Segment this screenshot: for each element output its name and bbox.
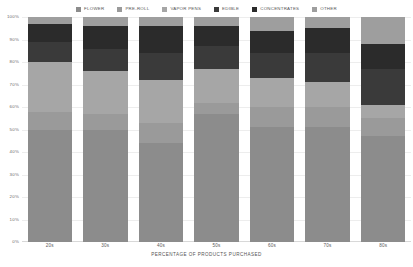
- legend-item[interactable]: FLOWER: [76, 7, 104, 12]
- bar-segment[interactable]: [250, 78, 294, 107]
- y-axis-tick-label: 50%: [10, 127, 19, 131]
- bar-segment[interactable]: [139, 143, 183, 242]
- bar-segment[interactable]: [83, 49, 127, 72]
- y-axis: 100%90%80%70%60%50%40%30%20%10%0%: [0, 17, 22, 242]
- bar-segment[interactable]: [250, 17, 294, 31]
- legend-item[interactable]: PRE-ROLL: [117, 7, 149, 12]
- legend-item-label: EDIBLE: [222, 7, 239, 11]
- y-axis-tick-label: 70%: [10, 82, 19, 86]
- legend-swatch-icon: [76, 7, 81, 12]
- legend-item-label: PRE-ROLL: [125, 7, 149, 11]
- bar-segment[interactable]: [83, 71, 127, 114]
- bar-segment[interactable]: [83, 130, 127, 243]
- y-axis-tick-label: 10%: [10, 217, 19, 221]
- legend-item-label: VAPOR PENS: [170, 7, 201, 11]
- bar-segment[interactable]: [83, 17, 127, 26]
- bar-segment[interactable]: [361, 105, 405, 119]
- chart-legend: FLOWERPRE-ROLLVAPOR PENSEDIBLECONCENTRAT…: [0, 3, 413, 15]
- y-axis-tick-label: 0%: [12, 240, 19, 244]
- bar-segment[interactable]: [194, 69, 238, 103]
- stacked-bar-group: [22, 17, 411, 242]
- bar-segment[interactable]: [361, 136, 405, 242]
- y-axis-tick-label: 20%: [10, 195, 19, 199]
- legend-swatch-icon: [117, 7, 122, 12]
- bar-segment[interactable]: [194, 103, 238, 114]
- legend-swatch-icon: [312, 7, 317, 12]
- bar-column[interactable]: [139, 17, 183, 242]
- bar-segment[interactable]: [250, 53, 294, 78]
- legend-item-label: FLOWER: [84, 7, 104, 11]
- bar-segment[interactable]: [361, 44, 405, 69]
- bar-segment[interactable]: [361, 69, 405, 105]
- bar-column[interactable]: [194, 17, 238, 242]
- legend-item-label: OTHER: [320, 7, 337, 11]
- legend-swatch-icon: [214, 7, 219, 12]
- bar-column[interactable]: [250, 17, 294, 242]
- bar-segment[interactable]: [361, 17, 405, 44]
- y-axis-tick-label: 60%: [10, 105, 19, 109]
- bar-segment[interactable]: [28, 42, 72, 62]
- bar-segment[interactable]: [250, 127, 294, 242]
- bar-segment[interactable]: [305, 127, 349, 242]
- bar-segment[interactable]: [194, 17, 238, 26]
- bar-segment[interactable]: [28, 112, 72, 130]
- bar-segment[interactable]: [305, 17, 349, 28]
- bar-column[interactable]: [305, 17, 349, 242]
- bar-segment[interactable]: [139, 123, 183, 143]
- legend-item[interactable]: VAPOR PENS: [162, 7, 201, 12]
- y-axis-tick-label: 40%: [10, 150, 19, 154]
- bar-segment[interactable]: [83, 114, 127, 130]
- bar-segment[interactable]: [305, 28, 349, 53]
- bar-segment[interactable]: [139, 80, 183, 123]
- legend-swatch-icon: [162, 7, 167, 12]
- bar-column[interactable]: [83, 17, 127, 242]
- y-axis-tick-label: 100%: [7, 15, 19, 19]
- bar-segment[interactable]: [28, 24, 72, 42]
- bar-segment[interactable]: [305, 82, 349, 107]
- legend-item-label: CONCENTRATES: [260, 7, 299, 11]
- y-axis-tick-label: 90%: [10, 37, 19, 41]
- bar-segment[interactable]: [250, 107, 294, 127]
- bar-segment[interactable]: [28, 62, 72, 112]
- bar-segment[interactable]: [305, 53, 349, 82]
- legend-item[interactable]: EDIBLE: [214, 7, 239, 12]
- bar-segment[interactable]: [139, 17, 183, 26]
- bar-segment[interactable]: [361, 118, 405, 136]
- y-axis-tick-label: 30%: [10, 172, 19, 176]
- y-axis-tick-label: 80%: [10, 60, 19, 64]
- bar-segment[interactable]: [250, 31, 294, 54]
- bar-segment[interactable]: [28, 17, 72, 24]
- bar-segment[interactable]: [194, 46, 238, 69]
- bar-segment[interactable]: [28, 130, 72, 243]
- legend-swatch-icon: [252, 7, 257, 12]
- bar-segment[interactable]: [83, 26, 127, 49]
- bar-segment[interactable]: [194, 26, 238, 46]
- bar-column[interactable]: [28, 17, 72, 242]
- x-axis-label: PERCENTAGE OF PRODUCTS PURCHASED: [0, 253, 413, 258]
- legend-item[interactable]: CONCENTRATES: [252, 7, 299, 12]
- bar-segment[interactable]: [139, 53, 183, 80]
- plot-area: 100%90%80%70%60%50%40%30%20%10%0%: [0, 17, 413, 242]
- bar-segment[interactable]: [194, 114, 238, 242]
- bar-segment[interactable]: [305, 107, 349, 127]
- legend-item[interactable]: OTHER: [312, 7, 337, 12]
- bar-column[interactable]: [361, 17, 405, 242]
- bar-segment[interactable]: [139, 26, 183, 53]
